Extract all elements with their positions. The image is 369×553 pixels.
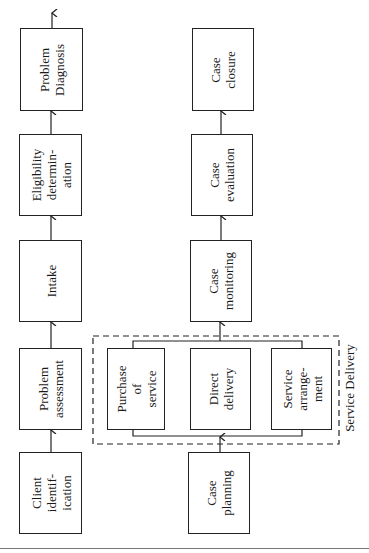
node-client-identification: Client identif- ication: [19, 452, 82, 534]
node-label: Intake: [43, 265, 58, 297]
node-label: Client identif- ication: [28, 474, 73, 512]
node-label: Problem assessment: [36, 360, 66, 418]
node-direct-delivery: Direct delivery: [190, 348, 251, 430]
node-case-planning: Case planning: [188, 452, 250, 534]
node-problem-diagnosis: Problem Diagnosis: [20, 28, 83, 111]
node-eligibility-determination: Eligibility determin- ation: [19, 134, 82, 216]
node-case-closure: Case closure: [192, 28, 254, 111]
node-label: Service arrange- ment: [279, 367, 324, 410]
node-problem-assessment: Problem assessment: [19, 348, 82, 430]
node-case-monitoring: Case monitoring: [190, 240, 252, 322]
node-label: Eligibility determin- ation: [28, 149, 73, 202]
node-case-evaluation: Case evaluation: [191, 134, 253, 216]
node-label: Direct delivery: [206, 368, 236, 411]
node-intake: Intake: [19, 240, 82, 322]
node-purchase-of-service: Purchase of service: [107, 348, 165, 430]
node-label: Problem Diagnosis: [37, 44, 67, 96]
node-label: Purchase of service: [114, 366, 159, 413]
node-label: Case evaluation: [207, 148, 237, 202]
node-label: Case closure: [208, 51, 238, 89]
node-label: Case planning: [204, 470, 234, 516]
node-service-arrangement: Service arrange- ment: [271, 348, 332, 430]
service-delivery-label: Service Delivery: [342, 344, 358, 432]
node-label: Case monitoring: [206, 252, 236, 310]
page-rule: [0, 548, 369, 549]
